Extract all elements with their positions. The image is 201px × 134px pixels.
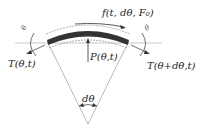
left-radius-line bbox=[49, 45, 88, 124]
label-angle: dθ bbox=[82, 93, 94, 104]
label-tension-right: T(θ+dθ,t) bbox=[147, 60, 196, 71]
arrow-head-icon bbox=[144, 50, 150, 54]
arrow-head-icon bbox=[120, 25, 126, 29]
label-force: f(t, dθ, F₀) bbox=[101, 7, 154, 18]
left-symbol: θ bbox=[20, 23, 29, 31]
label-pressure: P(θ,t) bbox=[89, 51, 118, 62]
diagram-canvas: f(t, dθ, F₀) P(θ,t) θ T(θ,t) θ T(θ+dθ,t)… bbox=[0, 0, 201, 134]
label-tension-left: T(θ,t) bbox=[8, 58, 36, 69]
arrow-head-icon bbox=[26, 50, 32, 54]
arrow-head-icon bbox=[86, 38, 90, 43]
right-symbol: θ bbox=[143, 23, 151, 32]
